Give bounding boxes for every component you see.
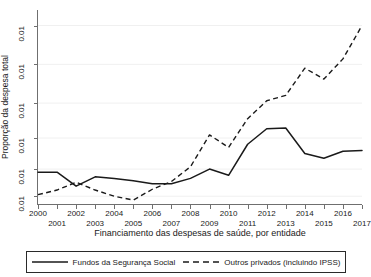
x-axis-tick-label: 2001 <box>48 219 66 228</box>
x-axis-tick <box>324 205 325 209</box>
x-axis-tick-label: 2009 <box>201 219 219 228</box>
x-axis-tick-label: 2017 <box>353 219 371 228</box>
x-axis-tick <box>133 205 134 209</box>
y-axis-tick-label: 0.01 <box>18 26 26 42</box>
plot-area <box>38 10 362 204</box>
legend-entry-fundos: Fundos da Segurança Social <box>32 258 176 267</box>
x-axis-tick <box>171 205 172 209</box>
y-axis-tick-label: 0.01 <box>18 169 26 185</box>
x-axis-tick-label: 2003 <box>86 219 104 228</box>
x-axis-tick <box>248 205 249 209</box>
x-axis-tick <box>286 205 287 209</box>
x-axis-tick <box>57 205 58 209</box>
series-canvas <box>38 10 362 204</box>
x-axis-tick-label: 2007 <box>163 219 181 228</box>
legend-swatch-dashed <box>183 258 219 266</box>
x-axis-tick-label: 2010 <box>220 209 238 218</box>
x-axis-tick-label: 2012 <box>258 209 276 218</box>
legend-label-fundos: Fundos da Segurança Social <box>73 258 176 267</box>
y-axis-tick-labels: 0.010.010.010.010.010.01 <box>0 0 36 214</box>
x-axis-tick-label: 2005 <box>124 219 142 228</box>
y-axis-tick-label: 0.01 <box>18 103 26 119</box>
x-axis-tick-label: 2015 <box>315 219 333 228</box>
y-axis-tick-label: 0.01 <box>18 64 26 80</box>
x-axis-tick-label: 2016 <box>334 209 352 218</box>
x-axis-tick-label: 2013 <box>277 219 295 228</box>
x-axis-tick-label: 2008 <box>182 209 200 218</box>
x-axis-title: Financiamento das despesas de saúde, por… <box>38 228 362 239</box>
x-axis-tick-label: 2011 <box>239 219 256 228</box>
x-axis-tick-label: 2002 <box>67 209 85 218</box>
gridlines <box>38 26 362 197</box>
x-axis-tick-label: 2000 <box>29 209 47 218</box>
x-axis-tick <box>210 205 211 209</box>
chart-legend: Fundos da Segurança Social Outros privad… <box>26 251 346 273</box>
legend-label-outros: Outros privados (incluindo IPSS) <box>224 258 340 267</box>
series-line-fundos-da-seguranca-social <box>38 128 362 186</box>
y-axis-tick-label: 0.01 <box>18 196 26 212</box>
legend-entry-outros: Outros privados (incluindo IPSS) <box>183 258 340 267</box>
x-axis-tick-label: 2004 <box>105 209 123 218</box>
x-axis-tick-labels: 2000200120022003200420052006200720082009… <box>38 205 362 229</box>
x-axis-tick-label: 2006 <box>143 209 161 218</box>
y-axis-tick-label: 0.01 <box>18 138 26 154</box>
x-axis-tick-label: 2014 <box>296 209 314 218</box>
x-axis-tick <box>362 205 363 209</box>
legend-swatch-solid <box>32 258 68 266</box>
x-axis-tick <box>95 205 96 209</box>
